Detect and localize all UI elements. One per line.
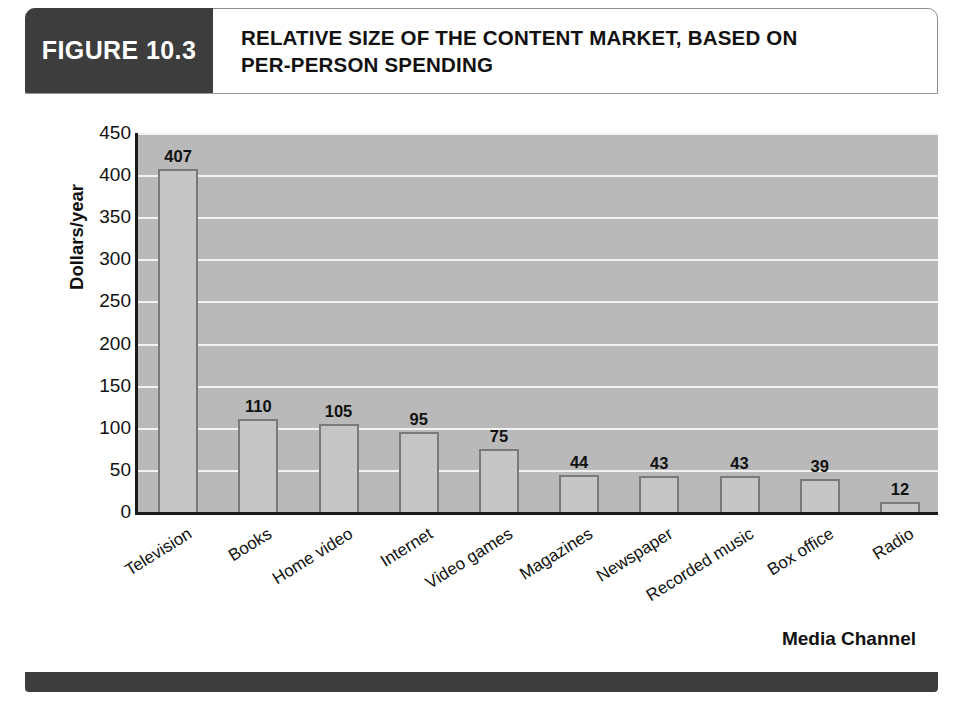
bar xyxy=(238,419,278,512)
y-axis-tick-label: 250 xyxy=(61,290,131,312)
y-axis-tick-label: 400 xyxy=(61,164,131,186)
bar xyxy=(559,475,599,512)
gridline xyxy=(138,133,938,135)
y-axis-tick-label: 300 xyxy=(61,248,131,270)
figure-container: FIGURE 10.3 RELATIVE SIZE OF THE CONTENT… xyxy=(0,0,966,710)
bar xyxy=(399,432,439,512)
bar xyxy=(880,502,920,512)
figure-title-line-2: PER-PERSON SPENDING xyxy=(241,51,938,78)
gridline xyxy=(138,344,938,346)
plot-area: 40711010595754443433912 xyxy=(135,133,938,515)
x-axis-tick-label: Radio xyxy=(771,524,917,626)
y-axis-tick-label: 0 xyxy=(61,501,131,523)
bar-value-label: 43 xyxy=(621,454,697,473)
y-axis-tick-label: 150 xyxy=(61,375,131,397)
y-axis-tick-label: 450 xyxy=(61,122,131,144)
x-axis-tick-label: Video games xyxy=(370,524,516,626)
bar xyxy=(639,476,679,512)
x-axis-tick-label: Books xyxy=(130,524,276,626)
bar xyxy=(479,449,519,512)
bar-value-label: 110 xyxy=(220,397,296,416)
gridline xyxy=(138,217,938,219)
figure-header: FIGURE 10.3 RELATIVE SIZE OF THE CONTENT… xyxy=(25,8,938,93)
figure-number-label: FIGURE 10.3 xyxy=(42,36,196,65)
y-axis-tick-label: 200 xyxy=(61,333,131,355)
gridline xyxy=(138,259,938,261)
bar xyxy=(720,476,760,512)
x-axis-tick-label: Internet xyxy=(290,524,436,626)
x-axis-title: Media Channel xyxy=(782,628,916,650)
y-axis-tick-label: 350 xyxy=(61,206,131,228)
gridline xyxy=(138,386,938,388)
figure-title-line-1: RELATIVE SIZE OF THE CONTENT MARKET, BAS… xyxy=(241,24,938,51)
figure-title: RELATIVE SIZE OF THE CONTENT MARKET, BAS… xyxy=(227,8,938,93)
figure-footer-bar xyxy=(25,672,938,692)
bar xyxy=(800,479,840,512)
x-axis-tick-label: Newspaper xyxy=(531,524,677,626)
bar-value-label: 105 xyxy=(301,402,377,421)
x-axis-tick-label: Magazines xyxy=(450,524,596,626)
bar xyxy=(319,424,359,512)
y-axis-tick-label: 100 xyxy=(61,417,131,439)
bar-value-label: 43 xyxy=(702,454,778,473)
plot-inner: 40711010595754443433912 xyxy=(138,133,938,512)
bar-value-label: 407 xyxy=(140,147,216,166)
bar-value-label: 44 xyxy=(541,453,617,472)
x-axis-tick-label: Home video xyxy=(210,524,356,626)
y-axis-tick-label: 50 xyxy=(61,459,131,481)
bar-value-label: 75 xyxy=(461,427,537,446)
bar-value-label: 12 xyxy=(862,480,938,499)
x-axis-tick-label: Box office xyxy=(691,524,837,626)
bar-value-label: 39 xyxy=(782,457,858,476)
gridline xyxy=(138,175,938,177)
gridline xyxy=(138,301,938,303)
bar xyxy=(158,169,198,512)
x-axis-tick-label: Recorded music xyxy=(611,524,757,626)
chart-canvas: Dollars/year 450400350300250200150100500… xyxy=(25,94,938,672)
figure-number-badge: FIGURE 10.3 xyxy=(25,8,213,93)
bar-value-label: 95 xyxy=(381,410,457,429)
